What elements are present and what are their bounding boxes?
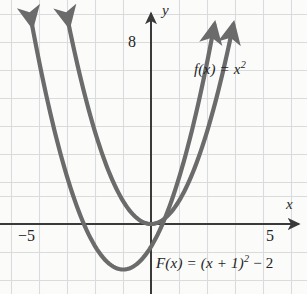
curve-label-f-exponent: 2: [241, 59, 246, 70]
x-axis-label: x: [286, 196, 293, 213]
curve-label-f-base: f(x) = x: [194, 61, 241, 77]
curve-label-f: f(x) = x2: [194, 59, 246, 78]
grid-lines: [0, 0, 307, 294]
y-tick-label-8: 8: [128, 33, 136, 51]
graph-figure: y x 8 −5 5 f(x) = x2 F(x) = (x + 1)2 − 2: [0, 0, 307, 294]
x-tick-label-5: 5: [266, 227, 274, 245]
parabola-plot: [0, 0, 307, 294]
curve-label-F-base: F(x) = (x + 1): [156, 255, 244, 271]
x-tick-label-neg5: −5: [18, 227, 35, 245]
curve-label-F: F(x) = (x + 1)2 − 2: [156, 253, 274, 272]
y-axis-label: y: [162, 2, 169, 19]
curve-label-F-suffix: − 2: [249, 255, 273, 271]
